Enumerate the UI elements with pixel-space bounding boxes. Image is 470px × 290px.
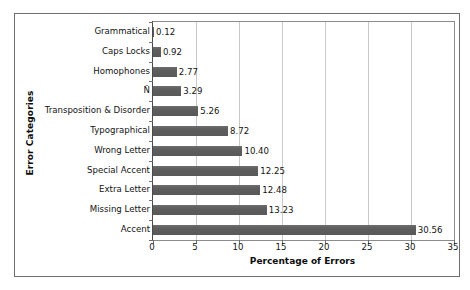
y-axis-tick [149,81,153,82]
y-axis-tick [149,181,153,182]
category-label: Ñ [39,85,150,95]
chart-figure: Error Categories GrammaticalCaps LocksHo… [14,13,460,277]
bar [153,86,181,96]
x-axis-tick-label: 30 [405,242,416,252]
bar-value-label: 12.25 [260,166,285,176]
plot-area: 0.120.922.773.295.268.7210.4012.2512.481… [152,21,455,241]
bar-value-label: 3.29 [183,86,202,96]
x-axis-tick-label: 10 [233,242,244,252]
y-axis-title-text: Error Categories [25,90,35,175]
bar [153,47,161,57]
x-axis-tick-labels: 05101520253035 [152,242,453,254]
bar-value-label: 5.26 [200,106,219,116]
y-axis-tick [149,101,153,102]
y-axis-tick [149,161,153,162]
bar [153,205,267,215]
category-label: Special Accent [39,165,150,175]
x-axis-tick-label: 35 [448,242,459,252]
x-axis-title: Percentage of Errors [152,256,453,266]
category-label: Typographical [39,125,150,135]
bar [153,225,416,235]
bar [153,146,242,156]
bar-value-label: 0.92 [163,47,182,57]
x-axis-tick-label: 5 [192,242,197,252]
category-label: Transposition & Disorder [39,105,150,115]
category-label: Wrong Letter [39,145,150,155]
x-axis-tick-label: 25 [362,242,373,252]
bar [153,27,154,37]
y-axis-tick [149,42,153,43]
category-label: Extra Letter [39,184,150,194]
y-axis-tick [149,62,153,63]
y-axis-tick [149,141,153,142]
category-label: Accent [39,224,150,234]
bar-value-label: 2.77 [179,67,198,77]
y-axis-tick [149,220,153,221]
y-axis-tick [149,121,153,122]
bar-value-label: 8.72 [230,126,249,136]
category-axis-labels: GrammaticalCaps LocksHomophonesÑTranspos… [39,21,150,239]
bar [153,67,177,77]
category-label: Caps Locks [39,46,150,56]
category-label: Missing Letter [39,204,150,214]
bar-value-label: 10.40 [244,146,269,156]
x-axis-tick-label: 0 [149,242,154,252]
bar-value-label: 30.56 [418,225,443,235]
gridline [325,22,326,240]
x-axis-tick-label: 20 [319,242,330,252]
bar [153,126,228,136]
bar [153,166,258,176]
y-axis-tick [149,22,153,23]
bar-value-label: 12.48 [262,185,287,195]
bar [153,185,260,195]
gridline [411,22,412,240]
y-axis-tick [149,200,153,201]
category-label: Grammatical [39,26,150,36]
bar-value-label: 0.12 [156,27,175,37]
y-axis-tick [149,240,153,241]
bar [153,106,198,116]
y-axis-title: Error Categories [21,14,39,252]
gridline [368,22,369,240]
category-label: Homophones [39,66,150,76]
bar-value-label: 13.23 [269,205,294,215]
x-axis-tick-label: 15 [276,242,287,252]
